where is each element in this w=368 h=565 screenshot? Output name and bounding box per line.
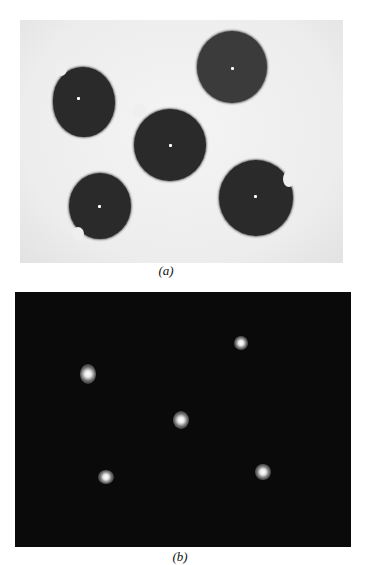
center-dot bbox=[169, 144, 172, 147]
panel-b-image bbox=[15, 292, 351, 547]
caption-b: (b) bbox=[160, 549, 200, 565]
bright-spot bbox=[234, 336, 248, 350]
disk-notch bbox=[283, 171, 295, 187]
panel-a-photo bbox=[20, 20, 343, 263]
disk-notch bbox=[132, 104, 146, 118]
disk-notch bbox=[72, 227, 84, 241]
bright-spot bbox=[255, 464, 271, 480]
bright-spot bbox=[98, 470, 114, 484]
center-dot bbox=[98, 205, 101, 208]
center-dot bbox=[254, 195, 257, 198]
caption-a: (a) bbox=[146, 263, 186, 279]
bright-spot bbox=[80, 364, 96, 384]
bright-spot bbox=[173, 411, 189, 429]
disk bbox=[53, 67, 115, 137]
center-dot bbox=[77, 97, 80, 100]
center-dot bbox=[231, 67, 234, 70]
disk bbox=[219, 160, 293, 236]
disk-notch bbox=[55, 62, 67, 76]
